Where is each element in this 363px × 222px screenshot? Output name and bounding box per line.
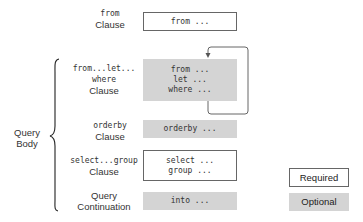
legend-required-label: Required	[300, 173, 339, 183]
repeat-loop-line	[208, 47, 248, 114]
loop-arrowhead-icon	[206, 53, 211, 58]
connectors	[0, 0, 363, 222]
legend-optional-label: Optional	[301, 197, 336, 207]
curly-brace	[50, 59, 59, 211]
legend-optional: Optional	[289, 193, 349, 211]
legend-required: Required	[289, 168, 349, 187]
